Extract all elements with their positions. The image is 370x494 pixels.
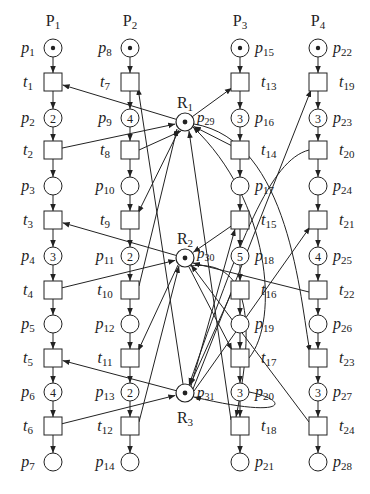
transition-label-t22: t22 (339, 281, 354, 300)
place-p5 (44, 315, 62, 333)
transition-t1 (44, 73, 62, 91)
place-p21 (231, 453, 249, 471)
token-count: 5 (237, 250, 243, 264)
transition-label-t18: t18 (261, 417, 277, 436)
transition-t21 (309, 211, 327, 229)
place-p3 (44, 177, 62, 195)
arc-resource (62, 124, 175, 148)
place-label-p16: p16 (254, 109, 275, 128)
token-count: 3 (315, 112, 321, 126)
place-label-p5: p5 (20, 315, 35, 334)
transition-t11 (121, 349, 139, 367)
place-p10 (121, 177, 139, 195)
token-count: 3 (315, 386, 321, 400)
transition-t24 (309, 417, 327, 435)
transition-label-t5: t5 (23, 349, 33, 368)
token-dot (238, 46, 242, 50)
transition-label-t21: t21 (339, 211, 354, 230)
resource-label-r2: R2 (177, 230, 193, 249)
transition-t8 (121, 141, 139, 159)
transition-label-t1: t1 (23, 73, 33, 92)
token-count: 3 (50, 250, 56, 264)
transition-t7 (121, 73, 139, 91)
labels: P1P2P3P4p1p2p3p4p5p6p7t1t2t3t4t5t6p8p9p1… (20, 12, 355, 472)
place-p7 (44, 453, 62, 471)
transition-t5 (44, 349, 62, 367)
petri-net-diagram: 234422353343 P1P2P3P4p1p2p3p4p5p6p7t1t2t… (0, 0, 370, 494)
petri-net-svg: 234422353343 P1P2P3P4p1p2p3p4p5p6p7t1t2t… (0, 0, 370, 494)
transition-label-t4: t4 (23, 281, 33, 300)
place-label-p6: p6 (20, 383, 35, 402)
token-dot (51, 46, 55, 50)
transition-label-t23: t23 (339, 349, 355, 368)
token-dot (183, 391, 188, 396)
transition-label-t14: t14 (261, 141, 277, 160)
place-p26 (309, 315, 327, 333)
place-p12 (121, 315, 139, 333)
transition-t15 (231, 211, 249, 229)
place-label-p14: p14 (95, 453, 116, 472)
resource-label-r3: R3 (177, 409, 194, 428)
transition-label-t2: t2 (23, 141, 33, 160)
process-label-3: P3 (233, 12, 248, 31)
transition-t13 (231, 73, 249, 91)
resource-place-label-p31: p31 (196, 384, 215, 402)
place-label-p20: p20 (254, 383, 275, 402)
transition-label-t15: t15 (261, 211, 277, 230)
place-label-p13: p13 (95, 383, 116, 402)
token-count: 3 (237, 112, 243, 126)
transition-t19 (309, 73, 327, 91)
token-count: 2 (127, 250, 133, 264)
place-p28 (309, 453, 327, 471)
place-p19 (231, 315, 249, 333)
transition-label-t6: t6 (23, 417, 33, 436)
place-label-p28: p28 (332, 453, 353, 472)
place-label-p9: p9 (97, 109, 112, 128)
place-p17 (231, 177, 249, 195)
place-label-p18: p18 (254, 247, 275, 266)
place-label-p2: p2 (20, 109, 35, 128)
place-p14 (121, 453, 139, 471)
arc-resource (139, 129, 177, 286)
transition-t17 (231, 349, 249, 367)
place-label-p26: p26 (332, 315, 353, 334)
place-label-p27: p27 (332, 383, 353, 402)
transition-label-t17: t17 (261, 349, 277, 368)
transition-t10 (121, 281, 139, 299)
transition-t16 (231, 281, 249, 299)
transition-label-t8: t8 (100, 141, 110, 160)
place-label-p22: p22 (332, 39, 352, 58)
transition-t4 (44, 281, 62, 299)
transition-t9 (121, 211, 139, 229)
arc-resource (63, 85, 177, 119)
transition-t6 (44, 417, 62, 435)
place-label-p1: p1 (20, 39, 35, 58)
token-dot (316, 46, 320, 50)
transition-label-t24: t24 (339, 417, 355, 436)
process-label-1: P1 (46, 12, 60, 31)
arc-resource (139, 266, 179, 422)
transition-label-t12: t12 (97, 417, 112, 436)
place-label-p12: p12 (95, 315, 115, 334)
transition-t12 (121, 417, 139, 435)
transition-t23 (309, 349, 327, 367)
place-label-p10: p10 (95, 177, 116, 196)
transition-t22 (309, 281, 327, 299)
transition-label-t7: t7 (100, 73, 110, 92)
token-count: 4 (50, 386, 56, 400)
transition-label-t11: t11 (97, 349, 112, 368)
transition-t18 (231, 417, 249, 435)
transition-t14 (231, 141, 249, 159)
process-label-4: P4 (311, 12, 326, 31)
place-label-p15: p15 (254, 39, 275, 58)
place-label-p11: p11 (95, 247, 115, 266)
arc-resource (189, 131, 231, 420)
place-label-p4: p4 (20, 247, 35, 266)
transition-label-t20: t20 (339, 141, 355, 160)
resource-place-label-p29: p29 (196, 109, 215, 127)
transition-label-t3: t3 (23, 211, 33, 230)
token-count: 2 (127, 386, 133, 400)
token-dot (183, 120, 188, 125)
resource-label-r1: R1 (177, 94, 193, 113)
place-label-p23: p23 (332, 109, 353, 128)
